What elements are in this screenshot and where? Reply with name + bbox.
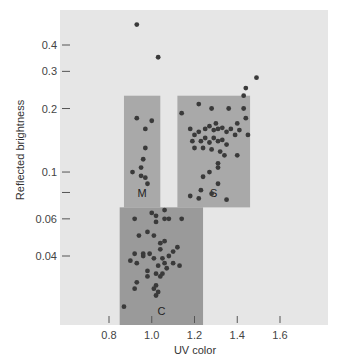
data-point (132, 251, 137, 256)
data-point (171, 261, 176, 266)
data-point (235, 153, 240, 158)
data-point (137, 233, 142, 238)
data-point (216, 139, 221, 144)
data-point (224, 142, 229, 147)
y-tick-label: 0.2 (42, 103, 57, 115)
data-point (209, 106, 214, 111)
data-point (220, 138, 225, 143)
data-point (201, 174, 206, 179)
data-point (128, 258, 133, 263)
data-point (154, 220, 159, 225)
data-point (226, 106, 231, 111)
region-label-c: C (157, 305, 165, 317)
data-point (224, 197, 229, 202)
data-point (216, 165, 221, 170)
data-point (196, 196, 201, 201)
data-point (139, 165, 144, 170)
data-point (203, 127, 208, 132)
y-tick-label: 0.1 (42, 166, 57, 178)
data-point (156, 263, 161, 268)
data-point (201, 146, 206, 151)
data-point (196, 102, 201, 107)
data-point (158, 274, 163, 279)
data-point (243, 86, 248, 91)
data-point (216, 181, 221, 186)
data-point (192, 132, 197, 137)
data-point (145, 181, 150, 186)
data-point (179, 216, 184, 221)
data-point (134, 280, 139, 285)
data-point (241, 106, 246, 111)
x-tick-label: 1.4 (230, 329, 245, 341)
data-point (154, 271, 159, 276)
data-point (213, 121, 218, 126)
data-point (132, 216, 137, 221)
data-point (154, 293, 159, 298)
y-axis-title: Reflected brightness (14, 99, 26, 200)
data-point (196, 129, 201, 134)
data-point (235, 121, 240, 126)
data-point (151, 286, 156, 291)
data-point (216, 127, 221, 132)
data-point (160, 256, 165, 261)
data-point (246, 132, 251, 137)
data-point (211, 136, 216, 141)
data-point (164, 266, 169, 271)
x-tick-label: 1.2 (187, 329, 202, 341)
data-point (139, 173, 144, 178)
data-point (192, 146, 197, 151)
data-point (209, 191, 214, 196)
data-point (141, 254, 146, 259)
data-point (143, 127, 148, 132)
data-point (220, 125, 225, 130)
data-point (190, 139, 195, 144)
data-point (233, 132, 238, 137)
data-point (134, 261, 139, 266)
data-point (166, 216, 171, 221)
data-point (188, 194, 193, 199)
data-point (222, 153, 227, 158)
data-point (203, 136, 208, 141)
data-point (134, 22, 139, 27)
data-point (130, 170, 135, 175)
data-point (162, 239, 167, 244)
data-point (199, 139, 204, 144)
data-point (158, 241, 163, 246)
data-point (162, 208, 167, 213)
data-point (171, 249, 176, 254)
region-label-m: M (138, 187, 147, 199)
data-point (132, 286, 137, 291)
data-point (147, 251, 152, 256)
data-point (228, 127, 233, 132)
data-point (254, 75, 259, 80)
x-axis-title: UV color (174, 344, 217, 356)
data-point (141, 157, 146, 162)
data-point (162, 261, 167, 266)
data-point (177, 263, 182, 268)
data-point (143, 146, 148, 151)
data-point (151, 256, 156, 261)
x-tick-label: 0.8 (101, 329, 116, 341)
data-point (207, 170, 212, 175)
data-point (145, 230, 150, 235)
data-point (211, 128, 216, 133)
data-point (166, 254, 171, 259)
x-tick-label: 1.0 (144, 329, 159, 341)
data-point (243, 116, 248, 121)
y-tick-label: 0.4 (42, 39, 57, 51)
data-point (122, 304, 127, 309)
data-point (237, 128, 242, 133)
data-point (151, 233, 156, 238)
data-point (162, 216, 167, 221)
y-tick-label: 0.3 (42, 65, 57, 77)
data-point (188, 127, 193, 132)
data-point (218, 149, 223, 154)
data-point (175, 245, 180, 250)
data-point (154, 213, 159, 218)
data-point (158, 247, 163, 252)
scatter-chart: MSC 0.040.060.10.20.30.4 0.81.01.21.41.6… (0, 0, 340, 364)
data-point (207, 124, 212, 129)
data-point (209, 147, 214, 152)
data-point (241, 93, 246, 98)
data-point (156, 55, 161, 60)
